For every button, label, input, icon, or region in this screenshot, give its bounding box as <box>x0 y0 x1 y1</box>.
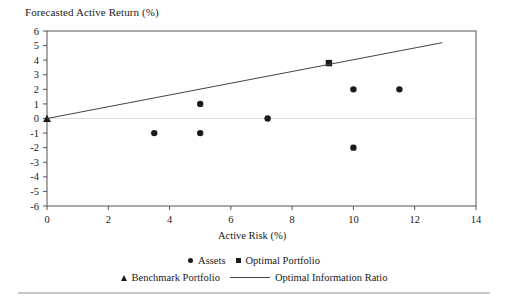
legend-entry-optimal-portfolio[interactable]: Optimal Portfolio <box>236 255 320 267</box>
footer-divider <box>18 292 490 294</box>
data-point-assets[interactable] <box>151 130 157 136</box>
legend-row-bottom: Benchmark Portfolio Optimal Information … <box>0 269 508 286</box>
legend-entry-assets[interactable]: Assets <box>188 255 225 267</box>
legend-label-optimal-information-ratio: Optimal Information Ratio <box>275 272 388 284</box>
triangle-marker-icon <box>121 275 127 281</box>
legend-entry-optimal-information-ratio[interactable]: Optimal Information Ratio <box>230 272 388 284</box>
y-axis-tick-label: 0 <box>34 113 39 124</box>
chart-figure: Forecasted Active Return (%) 6543210-1-2… <box>0 0 508 303</box>
y-axis-tick-label: 6 <box>34 26 39 37</box>
y-axis-tick-label: 2 <box>34 84 39 95</box>
x-axis-label: Active Risk (%) <box>218 230 286 241</box>
data-point-assets[interactable] <box>350 144 356 150</box>
legend-entry-benchmark-portfolio[interactable]: Benchmark Portfolio <box>121 272 220 284</box>
y-axis-tick-label: 5 <box>34 40 39 51</box>
legend-label-optimal-portfolio: Optimal Portfolio <box>246 255 320 267</box>
y-axis-tick-label: 4 <box>34 55 40 66</box>
line-marker-icon <box>230 277 270 278</box>
y-axis-tick-label: -5 <box>30 186 39 197</box>
data-point-assets[interactable] <box>197 130 203 136</box>
x-axis-tick-label: 10 <box>348 214 359 225</box>
square-marker-icon <box>236 258 241 263</box>
circle-marker-icon <box>188 258 193 263</box>
legend-row-top: Assets Optimal Portfolio <box>0 252 508 269</box>
x-axis-tick-label: 4 <box>167 214 173 225</box>
data-point-assets[interactable] <box>350 86 356 92</box>
data-point-assets[interactable] <box>197 101 203 107</box>
x-axis-tick-label: 0 <box>44 214 49 225</box>
y-axis-tick-label: -2 <box>30 142 39 153</box>
data-point-assets[interactable] <box>396 86 402 92</box>
legend-label-assets: Assets <box>198 255 225 267</box>
x-axis-tick-label: 12 <box>409 214 420 225</box>
data-point-assets[interactable] <box>264 115 270 121</box>
x-axis-tick-label: 2 <box>106 214 111 225</box>
y-axis-tick-label: 1 <box>34 99 39 110</box>
y-axis-tick-label: -1 <box>30 128 39 139</box>
legend-label-benchmark-portfolio: Benchmark Portfolio <box>132 272 220 284</box>
series-line-optimal-information-ratio <box>47 43 442 119</box>
x-axis-tick-label: 8 <box>290 214 295 225</box>
x-axis-tick-label: 14 <box>471 214 482 225</box>
y-axis-tick-label: -3 <box>30 157 39 168</box>
y-axis-tick-label: -6 <box>30 201 39 212</box>
y-axis-tick-label: 3 <box>34 69 39 80</box>
x-axis-tick-label: 6 <box>228 214 233 225</box>
y-axis-tick-label: -4 <box>30 171 39 182</box>
